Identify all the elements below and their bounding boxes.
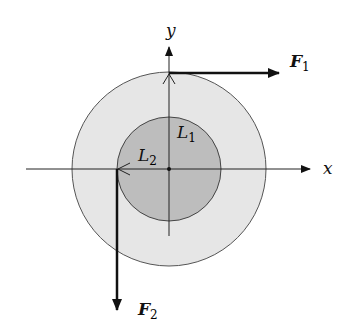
origin-dot	[167, 167, 171, 171]
y-axis-label: y	[165, 20, 176, 40]
x-axis-label: x	[323, 158, 333, 178]
diagram-canvas: y x L1 L2 F1 F2	[0, 0, 350, 336]
F2-label: F2	[137, 299, 158, 322]
F1-label: F1	[289, 51, 310, 74]
